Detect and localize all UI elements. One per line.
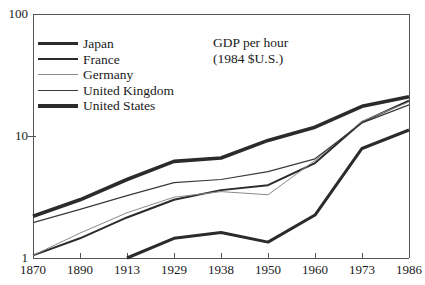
legend-item-label: United Kingdom xyxy=(78,83,174,99)
chart-title: GDP per hour xyxy=(213,35,288,51)
y-axis-tick-label: 100 xyxy=(0,6,28,22)
legend-swatch-icon xyxy=(38,104,78,108)
x-axis-tick-label: 1890 xyxy=(56,262,104,278)
x-axis-tick-label: 1986 xyxy=(385,262,425,278)
legend-swatch-icon xyxy=(38,58,78,60)
x-axis-tick-label: 1960 xyxy=(291,262,339,278)
legend-item-united-kingdom[interactable]: United Kingdom xyxy=(38,83,174,99)
legend-item-label: Japan xyxy=(78,36,114,52)
legend-item-france[interactable]: France xyxy=(38,52,174,68)
data-series-group xyxy=(33,97,409,258)
chart-subtitle: (1984 $U.S.) xyxy=(213,51,288,67)
legend-item-united-states[interactable]: United States xyxy=(38,98,174,114)
series-line-japan xyxy=(127,130,409,258)
x-axis-tick-label: 1929 xyxy=(150,262,198,278)
legend-item-label: United States xyxy=(78,98,155,114)
legend-swatch-icon xyxy=(38,74,78,75)
y-axis-tick-label: 10 xyxy=(0,128,28,144)
chart-legend: JapanFranceGermanyUnited KingdomUnited S… xyxy=(38,36,174,114)
legend-item-germany[interactable]: Germany xyxy=(38,67,174,83)
chart-title-block: GDP per hour (1984 $U.S.) xyxy=(213,35,288,67)
chart-container: 110100 187018901913192919381950196019731… xyxy=(0,0,425,285)
legend-item-japan[interactable]: Japan xyxy=(38,36,174,52)
x-axis-tick-label: 1913 xyxy=(103,262,151,278)
x-axis-tick-label: 1870 xyxy=(9,262,57,278)
series-line-united-states xyxy=(33,97,409,217)
x-axis-tick-label: 1950 xyxy=(244,262,292,278)
x-axis-tick-label: 1938 xyxy=(197,262,245,278)
legend-item-label: Germany xyxy=(78,67,133,83)
legend-swatch-icon xyxy=(38,42,78,45)
x-axis-tick-label: 1973 xyxy=(338,262,386,278)
legend-item-label: France xyxy=(78,52,120,68)
legend-swatch-icon xyxy=(38,90,78,91)
